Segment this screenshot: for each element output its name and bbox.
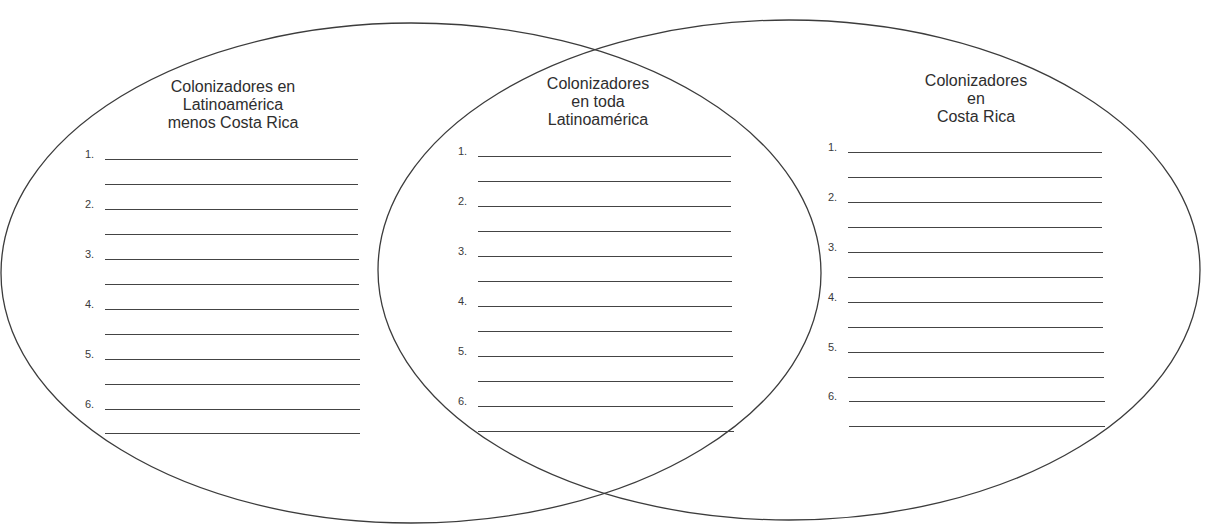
answer-line[interactable] xyxy=(105,334,359,335)
answer-line[interactable] xyxy=(105,209,358,210)
title-line: en xyxy=(925,90,1027,108)
left-ellipse xyxy=(1,23,821,523)
answer-line[interactable] xyxy=(105,433,360,434)
answer-line[interactable] xyxy=(105,184,358,185)
answer-line[interactable] xyxy=(848,352,1104,353)
item-number: 6. xyxy=(828,390,837,402)
answer-line[interactable] xyxy=(105,384,360,385)
answer-line[interactable] xyxy=(478,156,731,157)
answer-line[interactable] xyxy=(105,234,358,235)
answer-line[interactable] xyxy=(478,331,732,332)
answer-line[interactable] xyxy=(848,277,1103,278)
answer-line[interactable] xyxy=(105,309,359,310)
item-number: 6. xyxy=(85,398,94,410)
answer-line[interactable] xyxy=(478,256,732,257)
answer-line[interactable] xyxy=(848,227,1102,228)
answer-line[interactable] xyxy=(848,177,1102,178)
answer-line[interactable] xyxy=(478,231,731,232)
item-number: 4. xyxy=(85,298,94,310)
title-line: Colonizadores xyxy=(547,75,649,93)
answer-line[interactable] xyxy=(848,152,1102,153)
answer-line[interactable] xyxy=(478,406,733,407)
item-number: 2. xyxy=(458,195,467,207)
title-line: Latinoamérica xyxy=(547,111,649,129)
answer-line[interactable] xyxy=(478,431,734,432)
item-number: 1. xyxy=(85,148,94,160)
left-set-title: Colonizadores en Latinoamérica menos Cos… xyxy=(168,78,299,132)
item-number: 1. xyxy=(828,141,837,153)
item-number: 4. xyxy=(458,295,467,307)
item-number: 6. xyxy=(458,395,467,407)
answer-line[interactable] xyxy=(105,259,359,260)
item-number: 5. xyxy=(458,345,467,357)
answer-line[interactable] xyxy=(105,359,360,360)
answer-line[interactable] xyxy=(478,306,732,307)
answer-line[interactable] xyxy=(105,284,359,285)
item-number: 1. xyxy=(458,145,467,157)
center-set-title: Colonizadores en toda Latinoamérica xyxy=(547,75,649,129)
title-line: Colonizadores xyxy=(925,72,1027,90)
title-line: Colonizadores en xyxy=(168,78,299,96)
title-line: en toda xyxy=(547,93,649,111)
answer-line[interactable] xyxy=(848,377,1104,378)
right-set-title: Colonizadores en Costa Rica xyxy=(925,72,1027,126)
answer-line[interactable] xyxy=(848,302,1103,303)
item-number: 3. xyxy=(85,248,94,260)
answer-line[interactable] xyxy=(848,202,1102,203)
answer-line[interactable] xyxy=(478,281,732,282)
item-number: 3. xyxy=(828,241,837,253)
answer-line[interactable] xyxy=(848,327,1103,328)
title-line: menos Costa Rica xyxy=(168,114,299,132)
answer-line[interactable] xyxy=(848,252,1103,253)
item-number: 5. xyxy=(85,348,94,360)
answer-line[interactable] xyxy=(105,409,360,410)
item-number: 3. xyxy=(458,245,467,257)
answer-line[interactable] xyxy=(478,356,733,357)
answer-line[interactable] xyxy=(478,381,733,382)
title-line: Costa Rica xyxy=(925,108,1027,126)
answer-line[interactable] xyxy=(478,181,731,182)
answer-line[interactable] xyxy=(478,206,731,207)
answer-line[interactable] xyxy=(849,401,1105,402)
item-number: 5. xyxy=(828,341,837,353)
answer-line[interactable] xyxy=(849,426,1105,427)
answer-line[interactable] xyxy=(105,159,358,160)
item-number: 2. xyxy=(828,191,837,203)
item-number: 2. xyxy=(85,198,94,210)
item-number: 4. xyxy=(828,291,837,303)
right-ellipse xyxy=(378,20,1200,520)
title-line: Latinoamérica xyxy=(168,96,299,114)
